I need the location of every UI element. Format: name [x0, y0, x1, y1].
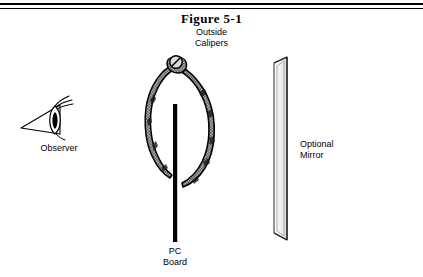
outside-calipers-icon: [145, 56, 215, 187]
figure-artwork: [0, 0, 423, 277]
pc-board-icon: [173, 104, 177, 242]
pivot-screw-icon: [170, 56, 182, 68]
eye-icon: [21, 96, 73, 140]
mirror-icon: [274, 57, 287, 240]
figure-page: Figure 5-1 Outside Calipers Observer PC …: [0, 0, 423, 277]
